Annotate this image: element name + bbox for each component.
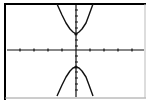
calculator-graph-screen: [0, 0, 146, 100]
upper-branch-vertex-point: [74, 32, 77, 35]
hyperbola-plot: [0, 0, 146, 100]
lower-branch-vertex-point: [74, 65, 77, 68]
